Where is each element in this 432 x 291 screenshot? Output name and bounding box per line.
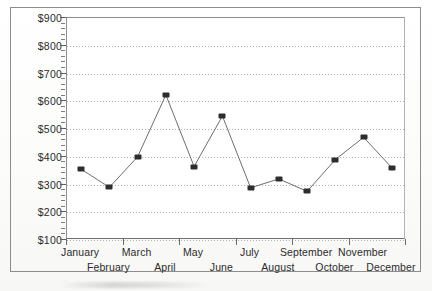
x-tick-label-may: May xyxy=(183,246,203,258)
y-tick-minor xyxy=(61,50,65,51)
x-tick xyxy=(405,239,406,245)
x-tick-label-april: April xyxy=(154,261,176,273)
y-tick-label: $900 xyxy=(38,12,62,24)
y-tick-minor xyxy=(61,172,65,173)
y-tick-minor xyxy=(61,34,65,35)
y-tick-label: $100 xyxy=(38,234,62,246)
y-tick-minor xyxy=(61,200,65,201)
y-tick-minor xyxy=(61,84,65,85)
x-tick xyxy=(66,239,67,245)
y-tick-minor xyxy=(61,78,65,79)
y-tick-major xyxy=(60,100,66,101)
y-tick-minor xyxy=(61,67,65,68)
y-tick-minor xyxy=(61,217,65,218)
x-tick-label-august: August xyxy=(261,261,294,273)
x-tick-label-november: November xyxy=(338,246,387,258)
y-tick-minor xyxy=(61,106,65,107)
scan-artifact-smudge xyxy=(60,282,210,288)
y-tick-label: $700 xyxy=(38,68,62,80)
y-tick-minor xyxy=(61,150,65,151)
data-point-april xyxy=(162,92,169,97)
x-tick xyxy=(123,239,124,245)
y-tick-label: $800 xyxy=(38,40,62,52)
data-point-june xyxy=(219,114,226,119)
x-tick-label-january: January xyxy=(61,246,99,258)
x-tick-label-october: October xyxy=(315,261,353,273)
x-tick xyxy=(349,239,350,245)
y-tick-minor xyxy=(61,222,65,223)
data-layer xyxy=(67,18,404,238)
data-point-october xyxy=(332,157,339,162)
y-tick-minor xyxy=(61,145,65,146)
y-tick-minor xyxy=(61,122,65,123)
x-tick xyxy=(236,239,237,245)
y-tick-minor xyxy=(61,228,65,229)
data-point-september xyxy=(304,189,311,194)
y-tick-major xyxy=(60,45,66,46)
y-tick-minor xyxy=(61,189,65,190)
y-tick-minor xyxy=(61,117,65,118)
y-tick-minor xyxy=(61,111,65,112)
y-tick-major xyxy=(60,73,66,74)
y-tick-minor xyxy=(61,167,65,168)
data-point-march xyxy=(134,154,141,159)
x-tick-label-june: June xyxy=(210,261,233,273)
data-point-december xyxy=(388,165,395,170)
y-axis-labels: $100$200$300$400$500$600$700$800$900 xyxy=(0,17,62,239)
y-tick-minor xyxy=(61,206,65,207)
y-tick-minor xyxy=(61,233,65,234)
y-tick-minor xyxy=(61,39,65,40)
x-tick xyxy=(292,239,293,245)
x-tick-label-march: March xyxy=(122,246,152,258)
data-point-january xyxy=(78,167,85,172)
y-tick-minor xyxy=(61,134,65,135)
x-tick-label-july: July xyxy=(240,246,259,258)
y-tick-label: $600 xyxy=(38,95,62,107)
x-tick-label-september: September xyxy=(280,246,332,258)
x-tick xyxy=(179,239,180,245)
data-point-july xyxy=(247,185,254,190)
y-tick-major xyxy=(60,184,66,185)
y-tick-minor xyxy=(61,139,65,140)
data-point-november xyxy=(360,135,367,140)
x-tick-label-december: December xyxy=(366,261,415,273)
plot-area xyxy=(66,17,405,239)
y-tick-minor xyxy=(61,95,65,96)
y-tick-minor xyxy=(61,28,65,29)
x-tick-label-february: February xyxy=(87,261,130,273)
y-tick-major xyxy=(60,156,66,157)
data-point-august xyxy=(275,176,282,181)
y-tick-minor xyxy=(61,56,65,57)
y-tick-minor xyxy=(61,23,65,24)
chart-screenshot: $100$200$300$400$500$600$700$800$900 Jan… xyxy=(0,0,432,291)
y-tick-major xyxy=(60,17,66,18)
data-point-may xyxy=(191,164,198,169)
series-line xyxy=(67,18,406,240)
y-tick-major xyxy=(60,128,66,129)
y-tick-label: $300 xyxy=(38,179,62,191)
y-tick-label: $500 xyxy=(38,123,62,135)
y-tick-label: $400 xyxy=(38,151,62,163)
y-tick-minor xyxy=(61,89,65,90)
y-tick-minor xyxy=(61,195,65,196)
y-tick-label: $200 xyxy=(38,206,62,218)
y-tick-major xyxy=(60,211,66,212)
y-tick-minor xyxy=(61,178,65,179)
data-point-february xyxy=(106,185,113,190)
y-tick-minor xyxy=(61,61,65,62)
y-tick-minor xyxy=(61,161,65,162)
